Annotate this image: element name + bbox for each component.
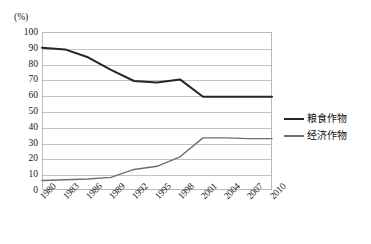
y-axis-tick-label: 0 [4,185,38,195]
chart-legend: 粮食作物经济作物 [284,110,370,144]
line-chart: (%) 1009080706050403020100 1980198319861… [0,0,371,244]
y-axis-tick-label: 20 [4,153,38,163]
y-axis-tick-label: 60 [4,90,38,100]
y-axis-tick-label: 40 [4,122,38,132]
y-axis-tick-label: 10 [4,169,38,179]
legend-item-label: 经济作物 [307,131,347,141]
y-axis-tick-label: 80 [4,59,38,69]
y-axis-tick-label: 70 [4,74,38,84]
y-axis-tick-label: 50 [4,106,38,116]
legend-item[interactable]: 经济作物 [284,127,370,144]
y-axis-unit-label: (%) [14,12,28,22]
y-axis-tick-label: 100 [4,27,38,37]
y-axis-tick-labels: 1009080706050403020100 [0,32,38,190]
legend-color-swatch [284,135,304,137]
series-line [42,138,272,181]
series-lines [42,32,272,190]
legend-item-label: 粮食作物 [307,114,347,124]
x-axis-tick-labels: 1980198319861989199219951998200120042007… [42,190,272,244]
series-line [42,48,272,97]
y-axis-tick-label: 30 [4,138,38,148]
legend-item[interactable]: 粮食作物 [284,110,370,127]
y-axis-tick-label: 90 [4,43,38,53]
legend-color-swatch [284,118,304,120]
